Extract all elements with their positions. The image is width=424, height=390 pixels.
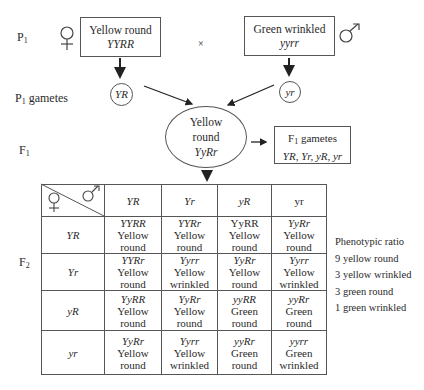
male-genotype: yyrr	[245, 36, 334, 50]
punnett-cell: YyRrYellowround	[272, 217, 327, 254]
row-header: YR	[42, 217, 105, 254]
ratio-item: 1 green wrinkled	[335, 300, 411, 317]
ratio-item: 3 yellow wrinkled	[335, 267, 411, 284]
female-gamete-circle: YR	[110, 83, 133, 106]
ratio-item: 9 yellow round	[335, 251, 411, 268]
col-header: YR	[105, 185, 162, 217]
row-header: Yr	[42, 254, 105, 291]
female-phenotype: Yellow round	[81, 23, 160, 37]
f1-genotype: YyRr	[166, 145, 246, 160]
male-parent-box: Green wrinkled yyrr	[244, 16, 335, 56]
cross-symbol: ×	[198, 38, 204, 49]
punnett-square: YR Yr yR yr YR YYRRYellowround YYRrYello…	[41, 184, 327, 375]
table-row: yr YyRrYellowround YyrrYellowwrinkled yy…	[42, 331, 327, 375]
punnett-cell: YyrrYellowwrinkled	[162, 254, 218, 291]
punnett-cell: YyRRYellowround	[105, 291, 162, 331]
f1-phenotype-line1: Yellow	[166, 115, 246, 130]
ratio-title: Phenotypic ratio	[335, 234, 411, 251]
male-gamete-circle: yr	[279, 81, 301, 103]
ratio-item: 3 green round	[335, 284, 411, 301]
punnett-cell: YyRrYellowround	[218, 254, 272, 291]
punnett-cell: yyrrGreenwrinkled	[272, 331, 327, 375]
table-row: yR YyRRYellowround YyRrYellowround yyRRG…	[42, 291, 327, 331]
f1-gametes-title: F1 gametes	[275, 131, 350, 149]
table-row: Yr YYRrYellowround YyrrYellowwrinkled Yy…	[42, 254, 327, 291]
punnett-cell: YyRrYellowround	[162, 291, 218, 331]
punnett-cell: YyrrYellowwrinkled	[162, 331, 218, 375]
f1-ellipse: Yellow round YyRr	[165, 106, 247, 168]
table-row: YR YYRRYellowround YYRrYellowround YyRRY…	[42, 217, 327, 254]
f1-gametes-box: F1 gametes YR, Yr, yR, yr	[274, 126, 351, 164]
p1-label: P1	[17, 30, 28, 45]
col-header: Yr	[162, 185, 218, 217]
punnett-cell: YYRrYellowround	[105, 254, 162, 291]
arrow-yr-male-to-f1	[228, 85, 274, 105]
f1-gametes-list: YR, Yr, yR, yr	[275, 149, 350, 163]
punnett-cell: YYRrYellowround	[162, 217, 218, 254]
col-header: yR	[218, 185, 272, 217]
punnett-cell: YyRrYellowround	[105, 331, 162, 375]
f1-phenotype-line2: round	[166, 130, 246, 145]
row-header: yR	[42, 291, 105, 331]
f1-label: F1	[19, 143, 30, 158]
f2-label: F2	[19, 255, 30, 270]
punnett-cell: YYRRYellowround	[105, 217, 162, 254]
table-header-row: YR Yr yR yr	[42, 185, 327, 217]
female-symbol-icon	[61, 27, 73, 50]
col-header: yr	[272, 185, 327, 217]
male-phenotype: Green wrinkled	[245, 22, 334, 36]
row-header: yr	[42, 331, 105, 375]
punnett-cell: yyRRGreenround	[218, 291, 272, 331]
punnett-cell: yyRrGreenround	[218, 331, 272, 375]
punnett-cell: yyRrGreenround	[272, 291, 327, 331]
arrow-yr-to-f1	[144, 86, 192, 104]
punnett-cell: YyRRYellowround	[218, 217, 272, 254]
female-genotype: YYRR	[81, 37, 160, 51]
phenotypic-ratio: Phenotypic ratio 9 yellow round 3 yellow…	[335, 234, 411, 317]
corner-cell	[42, 185, 105, 217]
p1-gametes-label: P1 gametes	[15, 91, 68, 106]
male-symbol-icon	[340, 24, 359, 42]
punnett-cell: YyrrYellowwrinkled	[272, 254, 327, 291]
female-parent-box: Yellow round YYRR	[80, 17, 161, 57]
